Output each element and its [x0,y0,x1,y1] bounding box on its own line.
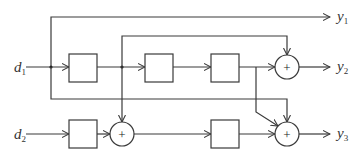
label-d2: d2 [14,126,26,144]
plus-symbol: + [118,127,125,142]
box2 [145,54,173,82]
adder-y2: + [275,55,299,79]
wire-box3-to-adder-y3 [256,67,278,126]
plus-symbol: + [283,127,290,142]
box4 [69,120,97,148]
adder-y3: + [275,122,299,146]
plus-symbol: + [283,60,290,75]
label-d1: d1 [14,59,26,77]
label-y1: y1 [335,8,348,26]
box1 [69,54,97,82]
box3 [211,54,239,82]
adder-mid: + [110,122,134,146]
label-y2: y2 [335,58,348,76]
label-y3: y3 [335,125,349,143]
box5 [211,120,239,148]
block-diagram: + + + d1 d2 y1 y2 y3 [0,0,363,155]
